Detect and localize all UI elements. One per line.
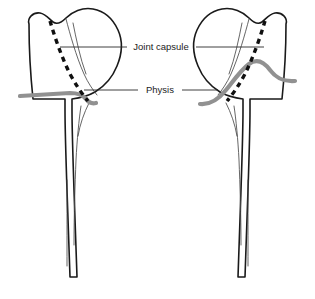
right-femur-medial-line bbox=[226, 103, 237, 136]
physis-label: Physis bbox=[146, 84, 174, 95]
right-femur bbox=[194, 9, 295, 277]
left-femur bbox=[20, 9, 121, 277]
joint-capsule-label: Joint capsule bbox=[133, 41, 188, 52]
left-femur-medial-line bbox=[78, 103, 89, 136]
anatomy-figure: Proximal femur diagram: joint capsule an… bbox=[0, 0, 315, 299]
figure-canvas: Proximal femur diagram: joint capsule an… bbox=[0, 0, 315, 299]
